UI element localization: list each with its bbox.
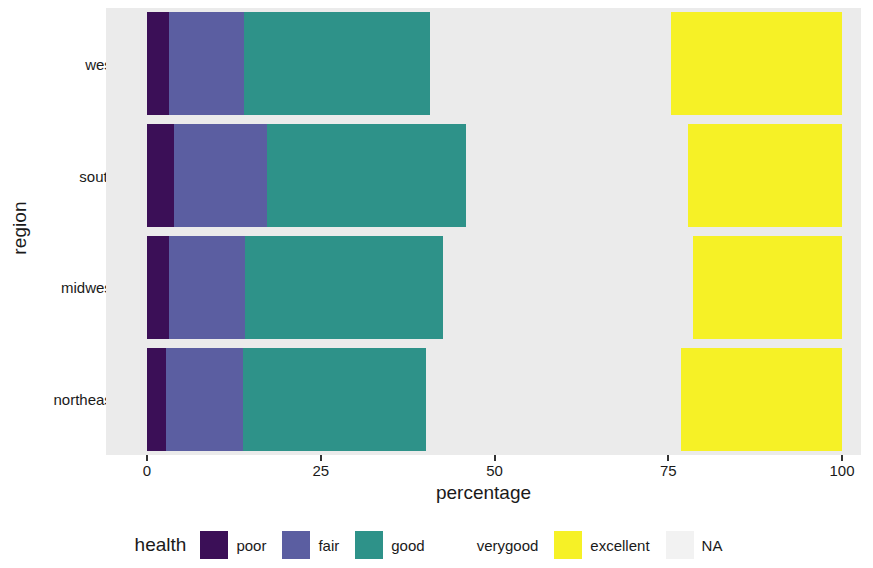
legend-swatch-excellent xyxy=(554,531,582,559)
x-axis-tick-mark xyxy=(146,455,148,461)
x-axis-tick-label: 50 xyxy=(486,462,503,479)
bar-segment-west-good xyxy=(244,12,430,115)
bar-segment-south-fair xyxy=(174,124,267,227)
bar-segment-west-verygood xyxy=(430,12,671,115)
stacked-bar-chart: region west-south-midwest-northeast- 025… xyxy=(0,0,873,568)
legend-label-verygood: verygood xyxy=(477,537,539,554)
bar-segment-northeast-verygood xyxy=(426,348,681,451)
legend-item-good[interactable]: good xyxy=(355,531,424,559)
bar-segment-south-excellent xyxy=(688,124,842,227)
bar-segment-northeast-excellent xyxy=(681,348,842,451)
bar-row-northeast xyxy=(147,348,842,451)
plot-panel xyxy=(106,8,861,455)
bar-row-south xyxy=(147,124,842,227)
legend-swatch-fair xyxy=(282,531,310,559)
x-axis-tick-mark xyxy=(320,455,322,461)
bar-segment-west-poor xyxy=(147,12,169,115)
legend-label-excellent: excellent xyxy=(590,537,649,554)
legend-label-fair: fair xyxy=(318,537,339,554)
legend-swatch-verygood xyxy=(441,531,469,559)
legend-item-excellent[interactable]: excellent xyxy=(554,531,649,559)
legend-item-verygood[interactable]: verygood xyxy=(441,531,539,559)
x-axis-tick-label: 0 xyxy=(143,462,151,479)
bar-segment-south-verygood xyxy=(466,124,688,227)
y-axis-title-text: region xyxy=(9,201,31,254)
x-axis-tick-mark xyxy=(667,455,669,461)
bar-segment-midwest-excellent xyxy=(693,236,842,339)
legend-label-poor: poor xyxy=(236,537,266,554)
legend-item-poor[interactable]: poor xyxy=(200,531,266,559)
bar-segment-midwest-fair xyxy=(169,236,245,339)
y-axis-title: region xyxy=(2,0,38,455)
bar-segment-midwest-verygood xyxy=(443,236,693,339)
x-axis: 0255075100 xyxy=(106,455,861,485)
legend-swatch-poor xyxy=(200,531,228,559)
bar-segment-northeast-poor xyxy=(147,348,166,451)
bar-row-west xyxy=(147,12,842,115)
legend-swatch-good xyxy=(355,531,383,559)
bar-segment-northeast-good xyxy=(243,348,426,451)
bar-segment-northeast-fair xyxy=(166,348,243,451)
x-axis-tick-mark xyxy=(841,455,843,461)
bar-segment-south-good xyxy=(267,124,466,227)
legend-item-fair[interactable]: fair xyxy=(282,531,339,559)
x-axis-title: percentage xyxy=(106,482,861,504)
x-axis-tick-mark xyxy=(494,455,496,461)
legend-swatch-NA xyxy=(666,531,694,559)
legend: health poorfairgoodverygoodexcellentNA xyxy=(0,525,873,565)
x-axis-tick-label: 75 xyxy=(660,462,677,479)
bar-segment-west-excellent xyxy=(671,12,842,115)
x-axis-tick-label: 100 xyxy=(829,462,854,479)
bar-segment-west-fair xyxy=(169,12,244,115)
legend-item-NA[interactable]: NA xyxy=(666,531,723,559)
bar-segment-midwest-poor xyxy=(147,236,169,339)
legend-label-good: good xyxy=(391,537,424,554)
legend-title: health xyxy=(135,534,187,556)
bar-segment-south-poor xyxy=(147,124,174,227)
legend-label-NA: NA xyxy=(702,537,723,554)
bar-row-midwest xyxy=(147,236,842,339)
bar-segment-midwest-good xyxy=(245,236,443,339)
x-axis-tick-label: 25 xyxy=(312,462,329,479)
x-axis-title-text: percentage xyxy=(436,482,531,503)
